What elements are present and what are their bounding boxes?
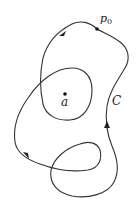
label-a: a: [61, 95, 68, 109]
arrow-right-icon: [104, 121, 110, 128]
label-p0: p0: [100, 12, 112, 26]
label-c: C: [112, 94, 121, 108]
curve-c: [15, 22, 129, 197]
winding-curve-diagram: p0 a C: [0, 0, 139, 203]
point-p0: [95, 27, 99, 31]
